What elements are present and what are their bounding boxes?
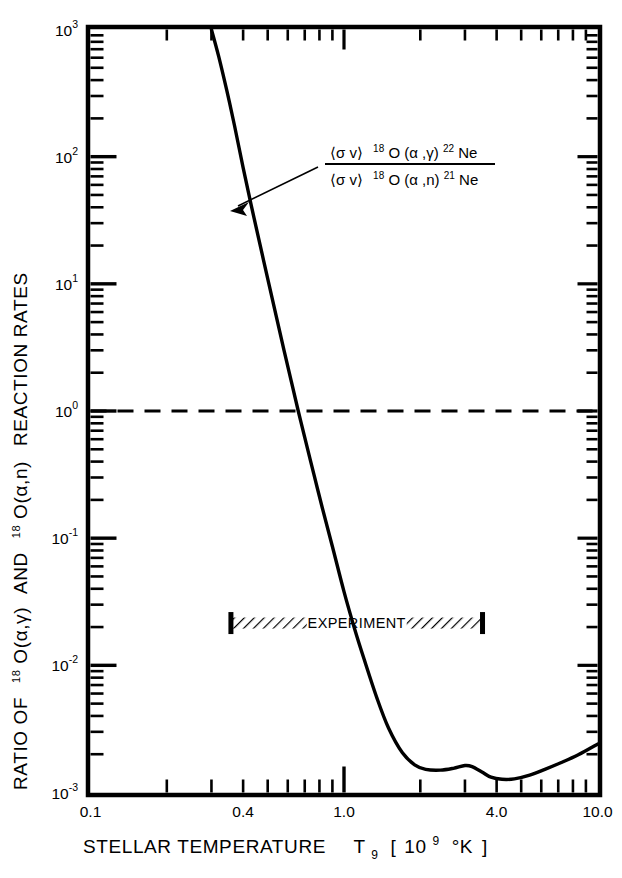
x-tick-label: 0.1 xyxy=(80,803,102,820)
y-tick-label: 101 xyxy=(55,272,78,293)
denominator-mass-number: 18 xyxy=(373,170,385,181)
experiment-label: EXPERIMENT xyxy=(308,615,406,631)
formula-denominator: ⟨σ v⟩ 18 O (α ,n) 21 Ne xyxy=(330,165,478,188)
y-tick-base: 10 xyxy=(51,530,69,547)
xlabel-symbol-sub: 9 xyxy=(371,848,378,862)
ylabel-iso1: O(α,γ) xyxy=(10,607,31,664)
experiment-band: EXPERIMENT xyxy=(228,612,485,634)
x-tick-label: 10.0 xyxy=(582,803,613,820)
y-tick-exponent: 2 xyxy=(72,145,78,157)
y-tick-base: 10 xyxy=(55,276,73,293)
xlabel-bracket-open: [ xyxy=(390,836,396,857)
numerator-product-mass: 22 xyxy=(443,143,455,154)
xlabel-unit-exp: 9 xyxy=(432,834,439,848)
y-tick-exponent: 0 xyxy=(72,399,78,411)
x-tick-label: 1.0 xyxy=(333,803,355,820)
ylabel-tail: REACTION RATES xyxy=(10,272,31,446)
denominator-bracket: ⟨σ v⟩ xyxy=(330,171,363,188)
formula-numerator: ⟨σ v⟩ 18 O (α ,γ) 22 Ne xyxy=(330,138,477,161)
y-tick-exponent: -2 xyxy=(69,653,78,665)
y-tick-exponent: 3 xyxy=(72,18,78,30)
x-axis-title: STELLAR TEMPERATURE T 9 [ 10 9 °K ] xyxy=(83,828,488,863)
xlabel-main: STELLAR TEMPERATURE xyxy=(83,836,326,857)
y-tick-base: 10 xyxy=(55,403,73,420)
numerator-nuclide: O (α ,γ) xyxy=(388,144,438,161)
x-axis-title-text: STELLAR TEMPERATURE T 9 [ 10 9 °K ] xyxy=(83,828,488,863)
x-tick-label: 4.0 xyxy=(486,803,508,820)
y-tick-label: 10-2 xyxy=(51,653,78,674)
y-tick-label: 10-3 xyxy=(51,781,78,802)
y-tick-exponent: -1 xyxy=(69,526,78,538)
y-tick-exponent: -3 xyxy=(69,781,78,793)
numerator-product: Ne xyxy=(458,144,477,161)
y-tick-base: 10 xyxy=(55,22,73,39)
xlabel-unit-base: 10 xyxy=(404,836,426,857)
y-tick-label: 103 xyxy=(55,18,78,39)
y-axis-title: RATIO OF 18 O(α,γ) AND 18 O(α,n) REACTIO… xyxy=(3,272,31,790)
ylabel-iso1-sup: 18 xyxy=(10,670,22,683)
ylabel-iso2: O(α,n) xyxy=(10,461,31,519)
annotation-leader-line xyxy=(238,167,318,206)
ylabel-conj: AND xyxy=(10,552,31,594)
y-tick-base: 10 xyxy=(51,657,69,674)
x-tick-label: 0.4 xyxy=(232,803,254,820)
ratio-curve xyxy=(211,30,597,780)
y-tick-base: 10 xyxy=(51,785,69,802)
xlabel-bracket-close: ] xyxy=(482,836,488,857)
denominator-nuclide: O (α ,n) xyxy=(388,171,439,188)
y-tick-base: 10 xyxy=(55,149,73,166)
y-tick-label: 102 xyxy=(55,145,78,166)
y-tick-exponent: 1 xyxy=(72,272,78,284)
figure-container: EXPERIMENT ⟨σ v⟩ 18 O (α ,γ) 22 Ne ⟨σ v⟩… xyxy=(0,0,622,878)
annotation-arrowhead xyxy=(230,202,249,216)
ylabel-lead: RATIO OF xyxy=(10,697,31,790)
y-tick-label: 100 xyxy=(55,399,78,420)
numerator-bracket: ⟨σ v⟩ xyxy=(330,144,363,161)
ratio-formula-annotation: ⟨σ v⟩ 18 O (α ,γ) 22 Ne ⟨σ v⟩ 18 O (α ,n… xyxy=(230,138,495,216)
denominator-product: Ne xyxy=(459,171,478,188)
numerator-mass-number: 18 xyxy=(373,143,385,154)
xlabel-unit-deg: °K xyxy=(452,836,473,857)
xlabel-symbol: T xyxy=(354,836,366,857)
y-axis-title-text: RATIO OF 18 O(α,γ) AND 18 O(α,n) REACTIO… xyxy=(3,272,31,790)
chart-svg: EXPERIMENT ⟨σ v⟩ 18 O (α ,γ) 22 Ne ⟨σ v⟩… xyxy=(0,0,622,878)
ylabel-iso2-sup: 18 xyxy=(10,525,22,538)
x-axis-tick-labels: 0.10.41.04.010.0 xyxy=(80,803,613,820)
y-tick-label: 10-1 xyxy=(51,526,78,547)
denominator-product-mass: 21 xyxy=(444,170,456,181)
y-axis-tick-labels: 10310210110010-110-210-3 xyxy=(51,18,78,802)
